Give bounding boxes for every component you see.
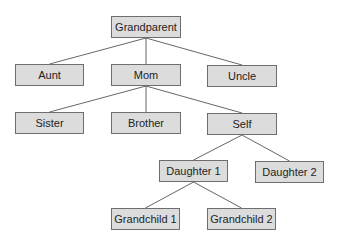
link-mom-self (146, 86, 242, 113)
node-grandchild-2: Grandchild 2 (207, 208, 276, 230)
node-grandchild-1: Grandchild 1 (111, 208, 180, 230)
node-self: Self (207, 113, 277, 135)
link-self-daughter2 (242, 135, 290, 161)
node-sister: Sister (15, 112, 84, 134)
node-daughter-2: Daughter 2 (255, 161, 324, 183)
link-grandparent-uncle (146, 38, 242, 65)
node-label: Grandchild 1 (114, 213, 176, 225)
node-label: Grandchild 2 (210, 213, 272, 225)
node-label: Mom (134, 69, 158, 81)
link-mom-sister (50, 86, 147, 112)
node-label: Brother (128, 117, 164, 129)
node-aunt: Aunt (15, 64, 84, 86)
node-mom: Mom (111, 64, 181, 86)
link-daughter1-grandchild2 (194, 182, 242, 208)
family-tree-diagram: Grandparent Aunt Mom Uncle Sister Brothe… (0, 0, 341, 243)
node-uncle: Uncle (207, 65, 277, 87)
node-label: Daughter 1 (166, 165, 220, 177)
link-self-daughter1 (194, 135, 243, 160)
node-label: Daughter 2 (262, 166, 316, 178)
link-grandparent-aunt (50, 38, 147, 64)
node-brother: Brother (111, 112, 181, 134)
link-daughter1-grandchild1 (146, 182, 194, 208)
node-grandparent: Grandparent (111, 16, 181, 38)
node-daughter-1: Daughter 1 (159, 160, 228, 182)
node-label: Aunt (38, 69, 61, 81)
node-label: Sister (35, 117, 63, 129)
node-label: Uncle (228, 70, 256, 82)
node-label: Grandparent (115, 21, 177, 33)
node-label: Self (233, 118, 252, 130)
